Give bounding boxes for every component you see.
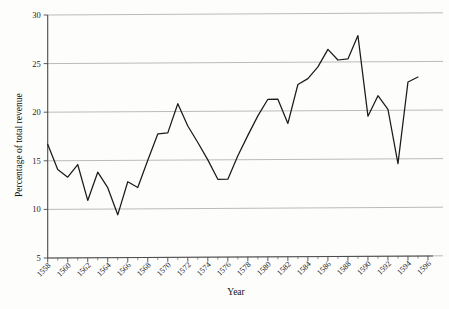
x-tick-label-1562: 1562 (75, 261, 93, 279)
x-tick-label-1584: 1584 (295, 260, 313, 278)
chart-figure: 51015202530 1558156015621564156615681570… (0, 0, 449, 309)
x-tick-label-1594: 1594 (395, 259, 413, 277)
gridline-30 (48, 13, 443, 15)
gridline-25 (48, 61, 443, 63)
x-tick-label-1570: 1570 (155, 260, 173, 278)
y-tick-label-25: 25 (32, 59, 41, 69)
x-tick-label-1558: 1558 (35, 261, 53, 279)
x-tick-label-1566: 1566 (115, 261, 133, 279)
x-tick-label-1574: 1574 (195, 260, 213, 278)
y-tick-label-20: 20 (32, 107, 41, 117)
x-tick-label-1560: 1560 (55, 261, 73, 279)
y-axis-title: Percentage of total revenue (14, 93, 24, 197)
gridline-15 (48, 159, 443, 161)
y-tick-label-10: 10 (32, 204, 41, 214)
y-tick-group: 51015202530 (32, 10, 48, 263)
axes-group (48, 15, 433, 258)
x-tick-label-1578: 1578 (235, 260, 253, 278)
x-tick-label-1588: 1588 (335, 259, 353, 277)
x-tick-label-1592: 1592 (375, 259, 393, 277)
x-tick-label-1596: 1596 (415, 259, 433, 277)
x-tick-label-1576: 1576 (215, 260, 233, 278)
y-tick-label-15: 15 (32, 156, 41, 166)
x-axis-title: Year (227, 287, 245, 297)
y-tick-label-30: 30 (32, 10, 41, 20)
gridline-10 (48, 207, 443, 209)
x-tick-label-1582: 1582 (275, 260, 293, 278)
x-tick-label-1580: 1580 (255, 260, 273, 278)
x-tick-label-1590: 1590 (355, 259, 373, 277)
x-tick-label-1564: 1564 (95, 261, 113, 279)
x-tick-label-1586: 1586 (315, 259, 333, 277)
x-tick-label-1572: 1572 (175, 260, 193, 278)
gridline-20 (48, 110, 443, 112)
y-tick-label-5: 5 (36, 253, 40, 263)
x-tick-group: 1558156015621564156615681570157215741576… (35, 256, 433, 279)
x-axis-line (48, 256, 433, 258)
gridlines-group (48, 13, 443, 258)
line-chart: 51015202530 1558156015621564156615681570… (0, 0, 449, 309)
x-tick-label-1568: 1568 (135, 260, 153, 278)
